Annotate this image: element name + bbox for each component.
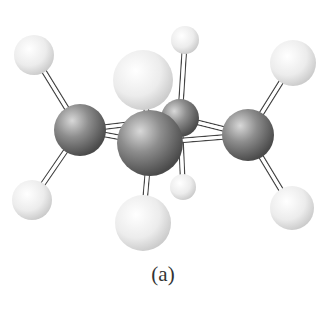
atoms	[12, 26, 316, 251]
hydrogen-atom	[14, 35, 54, 75]
carbon-atom	[117, 110, 183, 176]
hydrogen-atom	[270, 40, 316, 86]
figure: (a)	[0, 0, 326, 323]
figure-caption: (a)	[0, 262, 326, 287]
hydrogen-atom	[270, 186, 314, 230]
carbon-atom	[222, 109, 274, 161]
hydrogen-atom	[113, 50, 173, 110]
hydrogen-atom	[115, 195, 171, 251]
carbon-atom	[54, 104, 106, 156]
hydrogen-atom	[170, 174, 196, 200]
hydrogen-atom	[12, 180, 52, 220]
hydrogen-atom	[171, 26, 199, 54]
